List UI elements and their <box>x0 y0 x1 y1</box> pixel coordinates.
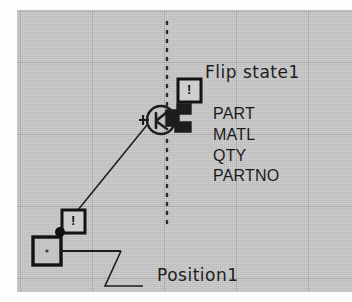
drawing-canvas[interactable]: ! ! Flip state1 PART MATL QTY PARTNO Pos… <box>17 10 352 292</box>
attribute-qty[interactable]: QTY <box>213 148 279 165</box>
leader-line <box>69 125 147 221</box>
position-leader <box>105 251 143 286</box>
attribute-partno[interactable]: PARTNO <box>213 168 279 185</box>
warning-badge-lower-glyph: ! <box>71 214 75 227</box>
attribute-list: PART MATL QTY PARTNO <box>213 106 279 185</box>
geometry-layer <box>17 10 352 292</box>
flip-state-label[interactable]: Flip state1 <box>205 64 300 81</box>
attribute-matl[interactable]: MATL <box>213 127 279 144</box>
square-handle-center-dot <box>45 249 48 252</box>
screenshot-root: ! ! Flip state1 PART MATL QTY PARTNO Pos… <box>0 0 352 302</box>
position-label[interactable]: Position1 <box>157 267 239 284</box>
attribute-part[interactable]: PART <box>213 106 279 123</box>
warning-badge-upper-glyph: ! <box>187 83 191 96</box>
